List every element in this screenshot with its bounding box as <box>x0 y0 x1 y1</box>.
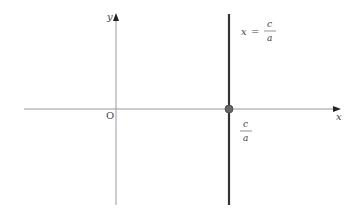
equation-denominator: a <box>267 33 272 43</box>
coordinate-diagram: y x O x = c a c a <box>0 0 357 217</box>
y-axis-arrow-icon <box>113 13 119 21</box>
equation-equals: = <box>251 26 259 37</box>
equation-numerator: c <box>267 19 272 29</box>
point-label-numerator: c <box>243 119 248 129</box>
y-axis-label: y <box>106 11 113 22</box>
x-axis-label: x <box>336 111 342 122</box>
intercept-point <box>225 105 233 113</box>
equation-lhs: x <box>241 26 247 37</box>
point-label-denominator: a <box>243 133 248 143</box>
origin-label: O <box>106 110 114 121</box>
